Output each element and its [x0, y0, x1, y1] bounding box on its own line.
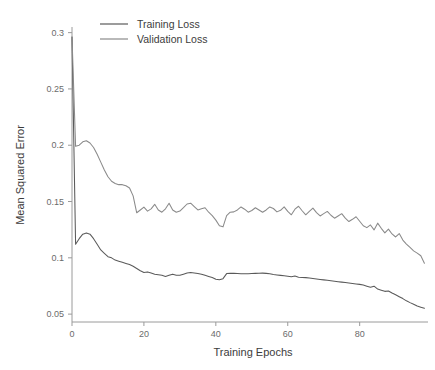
chart-figure: 0.050.10.150.20.250.3 020406080 Mean Squ…: [0, 0, 435, 370]
x-axis-ticks: 020406080: [69, 322, 364, 339]
legend-label-training: Training Loss: [137, 18, 200, 30]
x-tick-label: 0: [69, 329, 74, 339]
y-tick-label: 0.2: [51, 140, 64, 150]
chart-legend: Training Loss Validation Loss: [100, 18, 207, 45]
x-tick-label: 40: [211, 329, 221, 339]
x-tick-label: 60: [283, 329, 293, 339]
x-tick-label: 20: [139, 329, 149, 339]
line-chart: 0.050.10.150.20.250.3 020406080 Mean Squ…: [0, 0, 435, 370]
y-axis-label: Mean Squared Error: [14, 125, 26, 225]
data-series-group: [72, 37, 424, 308]
x-tick-label: 80: [355, 329, 365, 339]
x-axis-label: Training Epochs: [213, 346, 293, 358]
y-tick-label: 0.3: [51, 28, 64, 38]
y-tick-label: 0.05: [46, 309, 64, 319]
y-axis-ticks: 0.050.10.150.20.250.3: [46, 28, 72, 319]
y-tick-label: 0.25: [46, 84, 64, 94]
series-line-validation-loss: [72, 37, 424, 263]
legend-label-validation: Validation Loss: [137, 33, 207, 45]
series-line-training-loss: [72, 37, 424, 308]
y-tick-label: 0.1: [51, 253, 64, 263]
y-tick-label: 0.15: [46, 197, 64, 207]
